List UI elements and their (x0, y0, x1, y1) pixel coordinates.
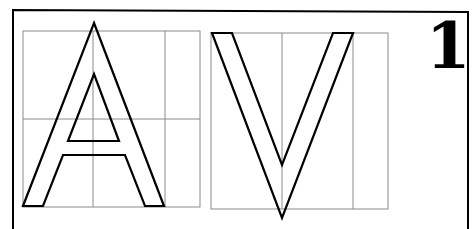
plate-number: 1 (426, 14, 471, 78)
letter-construction-plate (0, 0, 475, 229)
